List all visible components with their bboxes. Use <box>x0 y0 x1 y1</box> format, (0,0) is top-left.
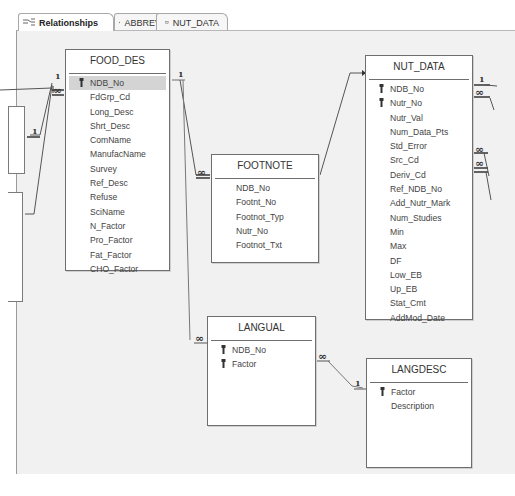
field-ndb-no[interactable]: NDB_No <box>366 82 472 96</box>
table-langual[interactable]: LANGUAL NDB_No Factor <box>207 316 316 426</box>
field-footnt-no[interactable]: Footnt_No <box>212 195 318 209</box>
offscreen-table-left-2[interactable] <box>8 192 23 302</box>
table-food-des[interactable]: FOOD_DES NDB_No FdGrp_Cd Long_Desc Shrt_… <box>65 49 170 271</box>
field-shrt-desc[interactable]: Shrt_Desc <box>66 119 169 133</box>
cardinality-many: ∞ <box>53 84 62 97</box>
table-title[interactable]: NUT_DATA <box>369 56 469 80</box>
field-min[interactable]: Min <box>366 225 472 239</box>
field-stat-cmt[interactable]: Stat_Cmt <box>366 296 472 310</box>
field-up-eb[interactable]: Up_EB <box>366 282 472 296</box>
document-tab-bar: Relationships ABBREV NUT_DATA <box>0 0 515 30</box>
cardinality-many: ∞ <box>475 157 484 170</box>
field-ndb-no[interactable]: NDB_No <box>69 76 166 90</box>
field-refuse[interactable]: Refuse <box>66 190 169 204</box>
field-nutr-val[interactable]: Nutr_Val <box>366 111 472 125</box>
cardinality-one: 1 <box>55 71 61 81</box>
field-sciname[interactable]: SciName <box>66 205 169 219</box>
table-title[interactable]: FOOTNOTE <box>215 155 315 179</box>
field-src-cd[interactable]: Src_Cd <box>366 153 472 167</box>
field-ndb-no[interactable]: NDB_No <box>212 181 318 195</box>
tab-nut-data[interactable]: NUT_DATA <box>156 13 228 31</box>
table-icon <box>165 18 169 27</box>
cardinality-one: 1 <box>355 378 361 388</box>
table-langdesc[interactable]: LANGDESC Factor Description <box>366 358 472 468</box>
cardinality-one: 1 <box>178 69 184 79</box>
table-title[interactable]: FOOD_DES <box>69 50 166 74</box>
table-title[interactable]: LANGUAL <box>211 317 312 341</box>
primary-key-icon <box>221 359 226 368</box>
field-std-error[interactable]: Std_Error <box>366 139 472 153</box>
primary-key-icon <box>380 387 385 396</box>
cardinality-many: ∞ <box>318 350 327 363</box>
offscreen-table-left-1[interactable] <box>8 106 25 174</box>
field-addmod-date[interactable]: AddMod_Date <box>366 311 472 325</box>
cardinality-many: ∞ <box>475 143 484 156</box>
primary-key-icon <box>221 345 226 354</box>
field-manufacname[interactable]: ManufacName <box>66 147 169 161</box>
table-footnote[interactable]: FOOTNOTE NDB_No Footnt_No Footnot_Typ Nu… <box>211 154 319 263</box>
field-fat-factor[interactable]: Fat_Factor <box>66 248 169 262</box>
field-ref-ndb-no[interactable]: Ref_NDB_No <box>366 182 472 196</box>
field-survey[interactable]: Survey <box>66 162 169 176</box>
cardinality-many: ∞ <box>475 86 484 99</box>
relationships-icon <box>23 18 35 27</box>
field-max[interactable]: Max <box>366 239 472 253</box>
field-factor[interactable]: Factor <box>367 385 471 399</box>
tab-relationships[interactable]: Relationships <box>18 13 114 31</box>
primary-key-icon <box>379 84 384 93</box>
field-low-eb[interactable]: Low_EB <box>366 268 472 282</box>
field-footnot-typ[interactable]: Footnot_Typ <box>212 210 318 224</box>
field-description[interactable]: Description <box>367 399 471 413</box>
field-pro-factor[interactable]: Pro_Factor <box>66 233 169 247</box>
field-comname[interactable]: ComName <box>66 133 169 147</box>
field-footnot-txt[interactable]: Footnot_Txt <box>212 238 318 252</box>
primary-key-icon <box>379 98 384 107</box>
field-long-desc[interactable]: Long_Desc <box>66 105 169 119</box>
field-add-nutr-mark[interactable]: Add_Nutr_Mark <box>366 196 472 210</box>
field-n-factor[interactable]: N_Factor <box>66 219 169 233</box>
field-cho-factor[interactable]: CHO_Factor <box>66 262 169 276</box>
cardinality-many: ∞ <box>195 332 204 345</box>
cardinality-many: ∞ <box>197 166 206 179</box>
field-nutr-no[interactable]: Nutr_No <box>212 224 318 238</box>
table-icon <box>119 18 120 27</box>
field-ndb-no[interactable]: NDB_No <box>208 343 315 357</box>
field-ref-desc[interactable]: Ref_Desc <box>66 176 169 190</box>
field-deriv-cd[interactable]: Deriv_Cd <box>366 168 472 182</box>
field-nutr-no[interactable]: Nutr_No <box>366 96 472 110</box>
field-fdgrp-cd[interactable]: FdGrp_Cd <box>66 90 169 104</box>
field-num-studies[interactable]: Num_Studies <box>366 211 472 225</box>
field-factor[interactable]: Factor <box>208 357 315 371</box>
table-title[interactable]: LANGDESC <box>370 359 468 383</box>
primary-key-icon <box>79 78 84 87</box>
tab-label: NUT_DATA <box>173 18 219 28</box>
cardinality-one: 1 <box>479 74 485 84</box>
cardinality-one: 1 <box>32 126 38 136</box>
tab-label: Relationships <box>39 18 98 28</box>
field-df[interactable]: DF <box>366 254 472 268</box>
field-num-data-pts[interactable]: Num_Data_Pts <box>366 125 472 139</box>
table-nut-data[interactable]: NUT_DATA NDB_No Nutr_No Nutr_Val Num_Dat… <box>365 55 473 320</box>
